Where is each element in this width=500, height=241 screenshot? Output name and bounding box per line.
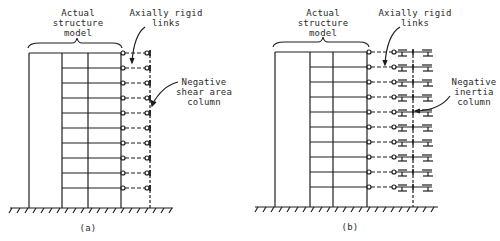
arrow-links-a — [132, 27, 145, 62]
label-actual-structure-model-b: Actual structure model — [293, 8, 353, 38]
figure-b — [255, 27, 450, 212]
rigid-links-a — [121, 50, 150, 191]
structure-a — [29, 53, 121, 208]
arrow-column-b — [416, 96, 450, 111]
structure-b — [275, 52, 367, 207]
brace-a — [28, 38, 122, 48]
ground-b — [255, 207, 438, 212]
label-actual-structure-model-a: Actual structure model — [48, 8, 108, 38]
arrow-links-b — [385, 27, 400, 64]
ground-a — [9, 208, 173, 213]
figure-a — [9, 27, 178, 213]
label-axially-rigid-links-a: Axially rigid links — [126, 8, 206, 28]
caption-a: (a) — [76, 223, 100, 233]
rigid-links-b — [367, 49, 433, 191]
brace-b — [273, 37, 369, 47]
label-negative-inertia-column: Negative inertia column — [448, 77, 500, 107]
caption-b: (b) — [338, 222, 362, 232]
label-axially-rigid-links-b: Axially rigid links — [375, 8, 455, 28]
label-negative-shear-area-column: Negative shear area column — [174, 77, 234, 107]
